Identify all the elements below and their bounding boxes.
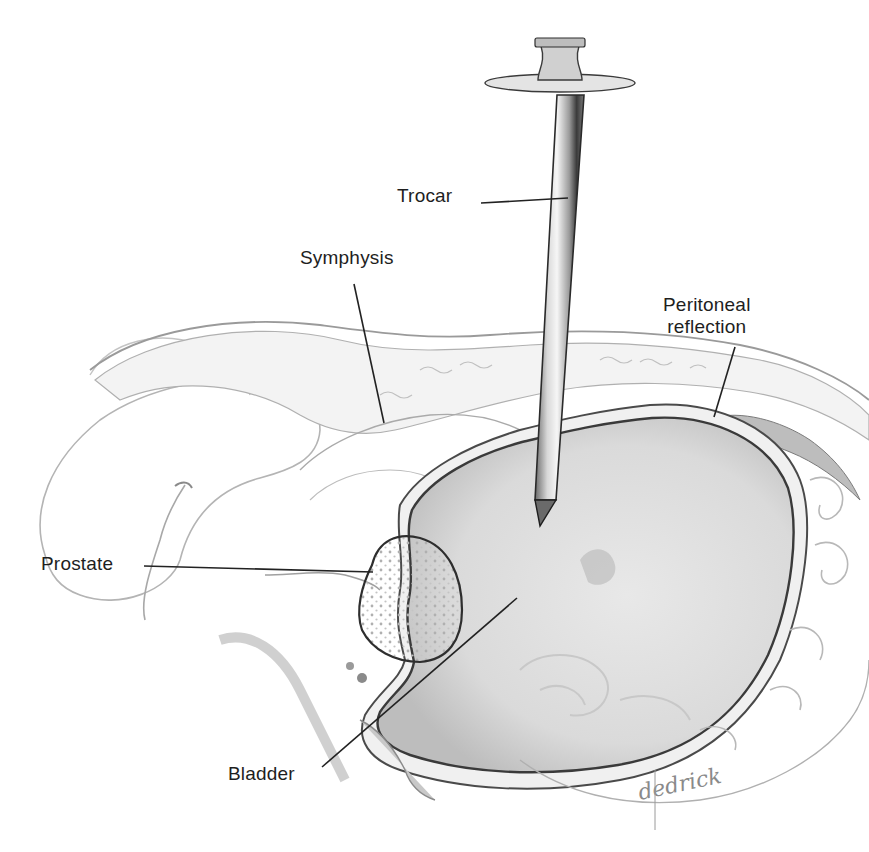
gland-dot — [357, 673, 367, 683]
medical-illustration: dedrick Trocar Symphysis Peritoneal refl… — [0, 0, 869, 852]
leader-prostate — [144, 566, 373, 572]
urethra-contour — [144, 485, 185, 620]
gland-dot — [346, 662, 354, 670]
anatomy-drawing: dedrick — [0, 0, 869, 852]
prostate-gland — [359, 536, 462, 662]
label-peritoneal-reflection: Peritoneal reflection — [663, 294, 751, 338]
bulbous-urethra — [220, 637, 345, 780]
label-symphysis: Symphysis — [300, 247, 394, 269]
label-trocar: Trocar — [397, 185, 452, 207]
label-prostate: Prostate — [41, 553, 113, 575]
label-bladder: Bladder — [228, 763, 295, 785]
